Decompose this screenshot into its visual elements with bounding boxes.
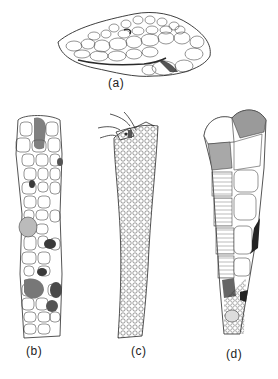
- panel-b-label: (b): [26, 344, 42, 358]
- panel-d-illustration: [200, 108, 272, 340]
- panel-b-illustration: [10, 114, 68, 340]
- panel-d-label: (d): [226, 347, 242, 361]
- panel-a-illustration: [54, 6, 214, 80]
- panel-c-illustration: [96, 108, 172, 342]
- panel-a-label: (a): [108, 76, 124, 90]
- panel-c-label: (c): [131, 344, 147, 358]
